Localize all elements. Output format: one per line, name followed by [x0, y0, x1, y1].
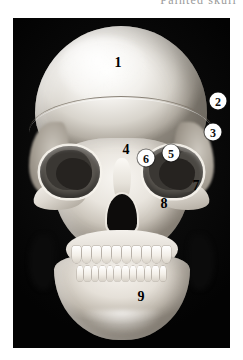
skull-photo-frame: 123456789 [13, 18, 230, 348]
label-8-maxilla: 8 [161, 197, 168, 211]
label-4-nasal-bone: 4 [123, 143, 130, 157]
tooth [145, 266, 152, 281]
tooth [92, 246, 101, 263]
label-5-orbit-lateral-wall: 5 [163, 145, 180, 162]
orbit-left [40, 146, 100, 198]
tooth [114, 266, 121, 281]
label-1-frontal-bone: 1 [115, 56, 122, 70]
lower-teeth-row [77, 266, 167, 281]
caption-bar: Painted skull [0, 0, 243, 14]
tooth [102, 246, 111, 263]
tooth [122, 246, 131, 263]
tooth [160, 266, 167, 281]
nasal-aperture [107, 194, 137, 234]
tooth [122, 266, 129, 281]
chin-highlight [82, 310, 162, 334]
tooth [84, 266, 91, 281]
label-3-greater-wing-sphenoid: 3 [205, 124, 222, 141]
tooth [99, 266, 106, 281]
tooth [132, 246, 141, 263]
tooth [137, 266, 144, 281]
orbit-left-rim-highlight [40, 146, 100, 198]
tooth [130, 266, 137, 281]
tooth [92, 266, 99, 281]
tooth [152, 246, 161, 263]
tooth [77, 266, 84, 281]
label-9-mandible: 9 [138, 290, 145, 304]
jaw-shadow-left [29, 234, 55, 290]
label-2-parietal-bone: 2 [210, 93, 227, 110]
upper-teeth-row [73, 246, 171, 263]
tooth [72, 246, 81, 263]
tooth [152, 266, 159, 281]
jaw-shadow-right [188, 234, 214, 290]
caption-fade [0, 8, 243, 14]
label-7-zygomatic-bone: 7 [193, 179, 200, 193]
tooth [82, 246, 91, 263]
tooth [107, 266, 114, 281]
tooth [142, 246, 151, 263]
tooth [112, 246, 121, 263]
label-6-orbit-medial-wall: 6 [138, 150, 155, 167]
tooth [162, 246, 171, 263]
figure-caption: Painted skull [160, 0, 237, 8]
cranium-highlight [59, 36, 151, 102]
